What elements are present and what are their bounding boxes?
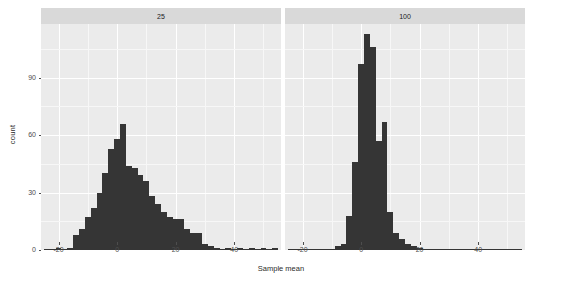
x-tick-mark xyxy=(59,242,60,245)
x-tick-label: 40 xyxy=(474,246,482,253)
x-tick-mark xyxy=(478,242,479,245)
y-axis-ticks: 0306090 xyxy=(0,0,41,283)
x-tick-label: 20 xyxy=(172,246,180,253)
facet-panel-100: 100 xyxy=(285,8,525,250)
x-tick-mark xyxy=(303,242,304,245)
x-tick-label: 20 xyxy=(416,246,424,253)
x-tick-mark xyxy=(234,242,235,245)
x-tick-mark xyxy=(361,242,362,245)
x-axis-25: -2002040 xyxy=(41,242,281,262)
x-tick-mark xyxy=(176,242,177,245)
facet-strip-label-25: 25 xyxy=(41,8,281,24)
x-tick-label: -20 xyxy=(53,246,63,253)
plot-area-100 xyxy=(285,24,525,250)
facet-panel-25: 25 xyxy=(41,8,281,250)
x-tick-mark xyxy=(420,242,421,245)
plot-area-25 xyxy=(41,24,281,250)
y-tick-label: 0 xyxy=(32,246,36,253)
x-tick-mark xyxy=(117,242,118,245)
histogram-bars-100 xyxy=(285,24,525,250)
facet-strip-label-100: 100 xyxy=(285,8,525,24)
y-tick-label: 30 xyxy=(28,189,36,196)
x-tick-label: 40 xyxy=(230,246,238,253)
x-axis-100: -2002040 xyxy=(285,242,525,262)
x-tick-label: 0 xyxy=(115,246,119,253)
y-tick-label: 90 xyxy=(28,74,36,81)
y-tick-label: 60 xyxy=(28,131,36,138)
x-tick-label: -20 xyxy=(297,246,307,253)
x-tick-label: 0 xyxy=(359,246,363,253)
histogram-bars-25 xyxy=(41,24,281,250)
chart-root: count 0306090 25 100 -2002040 -2002040 S… xyxy=(0,0,562,283)
x-axis-label: Sample mean xyxy=(0,264,562,273)
